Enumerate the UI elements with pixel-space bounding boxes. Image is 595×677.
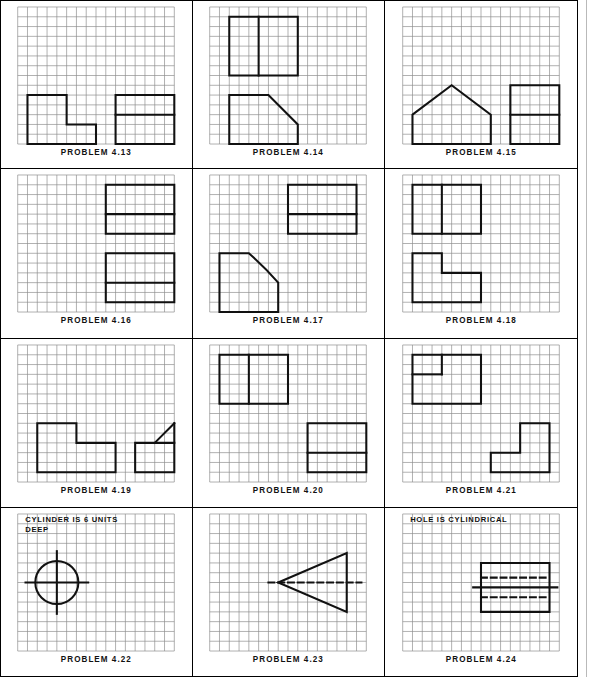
panel-inner: PROBLEM 4.15 bbox=[385, 1, 577, 168]
grid-lines bbox=[18, 344, 175, 481]
panel-inner: HOLE IS CYLINDRICALPROBLEM 4.24 bbox=[385, 508, 577, 676]
object-lines bbox=[230, 17, 299, 144]
l-shape-bottom bbox=[413, 254, 482, 303]
problem-panel-p415[interactable]: PROBLEM 4.15 bbox=[385, 0, 578, 169]
panel-label-p418: PROBLEM 4.18 bbox=[446, 316, 517, 325]
grid-canvas bbox=[205, 174, 371, 313]
panel-inner: PROBLEM 4.17 bbox=[193, 169, 385, 337]
drawing-area-p415[interactable] bbox=[398, 6, 564, 145]
rectangle-upper-right bbox=[288, 185, 357, 234]
notched-rectangle-top bbox=[413, 354, 482, 403]
panel-inner: PROBLEM 4.21 bbox=[385, 339, 577, 507]
panel-inner: PROBLEM 4.20 bbox=[193, 339, 385, 507]
grid-canvas bbox=[13, 174, 179, 313]
problem-panel-p422[interactable]: CYLINDER IS 6 UNITS DEEPPROBLEM 4.22 bbox=[0, 508, 193, 677]
panel-inner: PROBLEM 4.16 bbox=[1, 169, 192, 337]
problems-grid: PROBLEM 4.13PROBLEM 4.14PROBLEM 4.15PROB… bbox=[0, 0, 578, 677]
problem-panel-p414[interactable]: PROBLEM 4.14 bbox=[193, 0, 386, 169]
panel-label-p417: PROBLEM 4.17 bbox=[253, 316, 324, 325]
problem-panel-p419[interactable]: PROBLEM 4.19 bbox=[0, 339, 193, 508]
panel-label-p422: PROBLEM 4.22 bbox=[61, 655, 132, 664]
grid-canvas bbox=[205, 6, 371, 145]
grid-lines bbox=[403, 7, 560, 144]
page-edge-rule bbox=[586, 0, 587, 677]
panel-label-p413: PROBLEM 4.13 bbox=[61, 148, 132, 157]
drawing-area-p420[interactable] bbox=[205, 344, 371, 483]
grid-canvas bbox=[13, 6, 179, 145]
panel-inner: PROBLEM 4.14 bbox=[193, 1, 385, 168]
grid-canvas bbox=[398, 513, 564, 652]
drawing-area-p424[interactable]: HOLE IS CYLINDRICAL bbox=[398, 513, 564, 652]
panel-label-p421: PROBLEM 4.21 bbox=[446, 486, 517, 495]
panel-label-p416: PROBLEM 4.16 bbox=[61, 316, 132, 325]
panel-inner: PROBLEM 4.19 bbox=[1, 339, 192, 507]
drawing-area-p418[interactable] bbox=[398, 174, 564, 313]
drawing-area-p422[interactable]: CYLINDER IS 6 UNITS DEEP bbox=[13, 513, 179, 652]
object-lines bbox=[473, 563, 557, 612]
rectangle-lower bbox=[106, 254, 175, 303]
panel-note-p422: CYLINDER IS 6 UNITS DEEP bbox=[25, 515, 118, 535]
problem-panel-p418[interactable]: PROBLEM 4.18 bbox=[385, 169, 578, 338]
drawing-area-p413[interactable] bbox=[13, 6, 179, 145]
page-root: PROBLEM 4.13PROBLEM 4.14PROBLEM 4.15PROB… bbox=[0, 0, 595, 677]
divided-rectangle-top bbox=[413, 185, 482, 234]
rectangle-upper bbox=[106, 185, 175, 234]
panel-label-p424: PROBLEM 4.24 bbox=[446, 655, 517, 664]
panel-label-p415: PROBLEM 4.15 bbox=[446, 148, 517, 157]
panel-label-p423: PROBLEM 4.23 bbox=[253, 655, 324, 664]
drawing-area-p423[interactable] bbox=[205, 513, 371, 652]
grid-canvas bbox=[205, 344, 371, 483]
panel-label-p414: PROBLEM 4.14 bbox=[253, 148, 324, 157]
grid-lines bbox=[18, 175, 175, 312]
grid-canvas bbox=[398, 344, 564, 483]
grid-canvas bbox=[398, 6, 564, 145]
problem-panel-p417[interactable]: PROBLEM 4.17 bbox=[193, 169, 386, 338]
problem-panel-p421[interactable]: PROBLEM 4.21 bbox=[385, 339, 578, 508]
panel-inner: CYLINDER IS 6 UNITS DEEPPROBLEM 4.22 bbox=[1, 508, 192, 676]
problem-panel-p413[interactable]: PROBLEM 4.13 bbox=[0, 0, 193, 169]
problem-panel-p420[interactable]: PROBLEM 4.20 bbox=[193, 339, 386, 508]
drawing-area-p421[interactable] bbox=[398, 344, 564, 483]
stepped-block-left bbox=[28, 95, 97, 144]
panel-note-p424: HOLE IS CYLINDRICAL bbox=[410, 515, 507, 525]
grid-canvas bbox=[398, 174, 564, 313]
panel-inner: PROBLEM 4.18 bbox=[385, 169, 577, 337]
object-lines bbox=[28, 95, 175, 144]
grid-canvas bbox=[205, 513, 371, 652]
drawing-area-p419[interactable] bbox=[13, 344, 179, 483]
chamfered-block-bottom bbox=[230, 95, 299, 144]
panel-label-p419: PROBLEM 4.19 bbox=[61, 486, 132, 495]
drawing-area-p416[interactable] bbox=[13, 174, 179, 313]
problem-panel-p424[interactable]: HOLE IS CYLINDRICALPROBLEM 4.24 bbox=[385, 508, 578, 677]
problem-panel-p423[interactable]: PROBLEM 4.23 bbox=[193, 508, 386, 677]
panel-label-p420: PROBLEM 4.20 bbox=[253, 486, 324, 495]
object-lines bbox=[26, 551, 89, 614]
grid-canvas bbox=[13, 344, 179, 483]
drawing-area-p414[interactable] bbox=[205, 6, 371, 145]
divided-rectangle-top bbox=[220, 354, 289, 403]
drawing-area-p417[interactable] bbox=[205, 174, 371, 313]
panel-inner: PROBLEM 4.23 bbox=[193, 508, 385, 676]
problem-panel-p416[interactable]: PROBLEM 4.16 bbox=[0, 169, 193, 338]
panel-inner: PROBLEM 4.13 bbox=[1, 1, 192, 168]
